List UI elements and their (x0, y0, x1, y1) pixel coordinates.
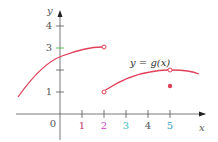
y-tick-label-3: 3 (40, 43, 52, 53)
x-tick-label-3: 3 (123, 121, 129, 131)
x-tick-label-4: 4 (145, 121, 151, 131)
origin-label: 0 (50, 119, 56, 129)
x-tick-label-2: 2 (101, 121, 107, 131)
filled-point-at-5 (168, 84, 172, 88)
x-tick-label-5: 5 (167, 121, 173, 131)
function-label: y = g(x) (130, 57, 170, 68)
x-axis-label: x (199, 122, 205, 133)
open-hole-at-5 (168, 68, 172, 72)
y-tick-label-1: 1 (40, 87, 52, 97)
curve-right-piece (106, 70, 169, 90)
curve-right-piece-tail (172, 70, 199, 74)
x-tick-label-1: 1 (79, 121, 85, 131)
y-axis-label: y (47, 5, 53, 16)
open-endpoint-left (102, 45, 106, 49)
y-axis-arrow-icon (58, 10, 63, 17)
x-axis-arrow-icon (199, 112, 206, 117)
open-endpoint-right-start (102, 90, 106, 94)
graph-canvas (0, 0, 218, 142)
y-tick-label-4: 4 (40, 21, 52, 31)
